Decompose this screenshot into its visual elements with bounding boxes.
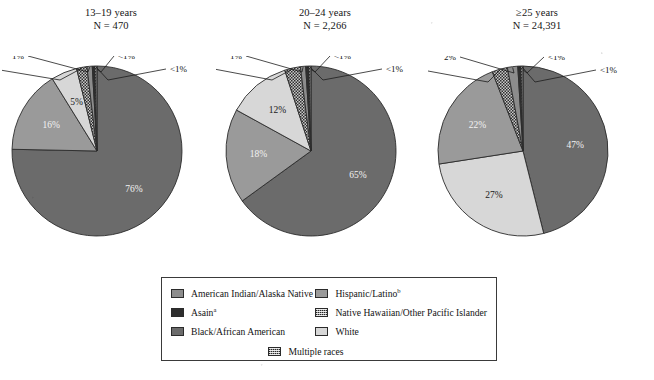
legend-row-centered: Multiple races: [171, 342, 487, 361]
legend-column-left: American Indian/Alaska NativeAsainaBlack…: [171, 284, 315, 341]
chart-age-group-label: ≥25 years: [428, 7, 646, 20]
legend-item-5: White: [315, 322, 487, 341]
legend-item-label: Asaina: [191, 308, 216, 318]
legend-swatch-icon: [315, 289, 328, 299]
legend-centered-wrap: Multiple races: [171, 342, 487, 361]
slice-value-label: 12%: [269, 105, 287, 115]
pie-chart-13-19: 13–19 years N = 470 76%16%5%2%1%<1%<1%: [2, 0, 220, 272]
legend-item-label: Black/African American: [191, 327, 285, 337]
legend-item-2: Black/African American: [171, 322, 315, 341]
chart-age-group-label: 13–19 years: [2, 7, 220, 20]
chart-n-label: N = 470: [2, 20, 220, 33]
legend-item-0: American Indian/Alaska Native: [171, 284, 315, 303]
legend-item-label: American Indian/Alaska Native: [191, 289, 313, 299]
pie-svg: 65%18%12%3%1%<1%<1%: [216, 56, 434, 256]
chart-title-20-24: 20–24 years N = 2,266: [216, 0, 434, 32]
pie-area-25-plus: 47%27%22%3%2%<1%<1%: [428, 44, 646, 272]
slice-value-label: 18%: [250, 149, 268, 159]
legend-column-right: Hispanic/LatinobNative Hawaiian/Other Pa…: [315, 284, 487, 341]
pie-area-20-24: 65%18%12%3%1%<1%<1%: [216, 44, 434, 272]
slice-value-label: 76%: [125, 184, 143, 194]
slice-value-label: 22%: [469, 120, 487, 130]
slice-callout-label: 1%: [12, 56, 25, 61]
legend-item-label: White: [335, 327, 358, 337]
slice-value-label: 47%: [567, 140, 585, 150]
legend-footnote-marker: b: [397, 286, 400, 293]
legend-item-label: Multiple races: [288, 347, 343, 357]
legend-swatch-icon: [171, 308, 184, 318]
slice-value-label: 65%: [349, 170, 367, 180]
chart-n-label: N = 24,391: [428, 20, 646, 33]
slice-callout-label: <1%: [334, 56, 352, 61]
pie-svg: 76%16%5%2%1%<1%<1%: [2, 56, 220, 256]
slice-callout-label: <1%: [548, 56, 566, 62]
callout-leader-line: [28, 56, 90, 72]
slice-value-label: 16%: [43, 120, 61, 130]
callout-leader-line: [246, 56, 303, 72]
chart-n-label: N = 2,266: [216, 20, 434, 33]
legend-item-1: Asaina: [171, 303, 315, 322]
pie-chart-panel: 13–19 years N = 470 76%16%5%2%1%<1%<1% 2…: [0, 0, 654, 272]
pie-svg: 47%27%22%3%2%<1%<1%: [428, 56, 646, 256]
legend-item-label: Hispanic/Latinob: [335, 289, 400, 299]
legend: American Indian/Alaska NativeAsainaBlack…: [161, 277, 497, 361]
slice-value-label: 27%: [485, 190, 503, 200]
legend-item-label: Native Hawaiian/Other Pacific Islander: [335, 308, 487, 318]
legend-footnote-marker: a: [213, 305, 216, 312]
pie-chart-25-plus: ≥25 years N = 24,391 47%27%22%3%2%<1%<1%: [428, 0, 646, 272]
pie-chart-20-24: 20–24 years N = 2,266 65%18%12%3%1%<1%<1…: [216, 0, 434, 272]
chart-title-13-19: 13–19 years N = 470: [2, 0, 220, 32]
callout-leader-line: [460, 57, 514, 73]
slice-callout-label: 2%: [444, 56, 457, 62]
legend-swatch-icon: [171, 327, 184, 337]
chart-title-25-plus: ≥25 years N = 24,391: [428, 0, 646, 32]
legend-item-4: Native Hawaiian/Other Pacific Islander: [315, 303, 487, 322]
slice-callout-label: <1%: [118, 56, 136, 61]
slice-callout-label: 1%: [230, 56, 243, 61]
slice-callout-label: <1%: [170, 64, 188, 74]
legend-swatch-icon: [315, 327, 328, 337]
slice-callout-label: <1%: [600, 65, 618, 75]
legend-item-3: Hispanic/Latinob: [315, 284, 487, 303]
slice-callout-label: <1%: [386, 64, 404, 74]
legend-item-6: Multiple races: [268, 342, 343, 361]
legend-swatch-icon: [268, 347, 281, 357]
chart-age-group-label: 20–24 years: [216, 7, 434, 20]
legend-swatch-icon: [171, 289, 184, 299]
legend-swatch-icon: [315, 308, 328, 318]
pie-area-13-19: 76%16%5%2%1%<1%<1%: [2, 44, 220, 272]
slice-value-label: 5%: [70, 97, 83, 107]
